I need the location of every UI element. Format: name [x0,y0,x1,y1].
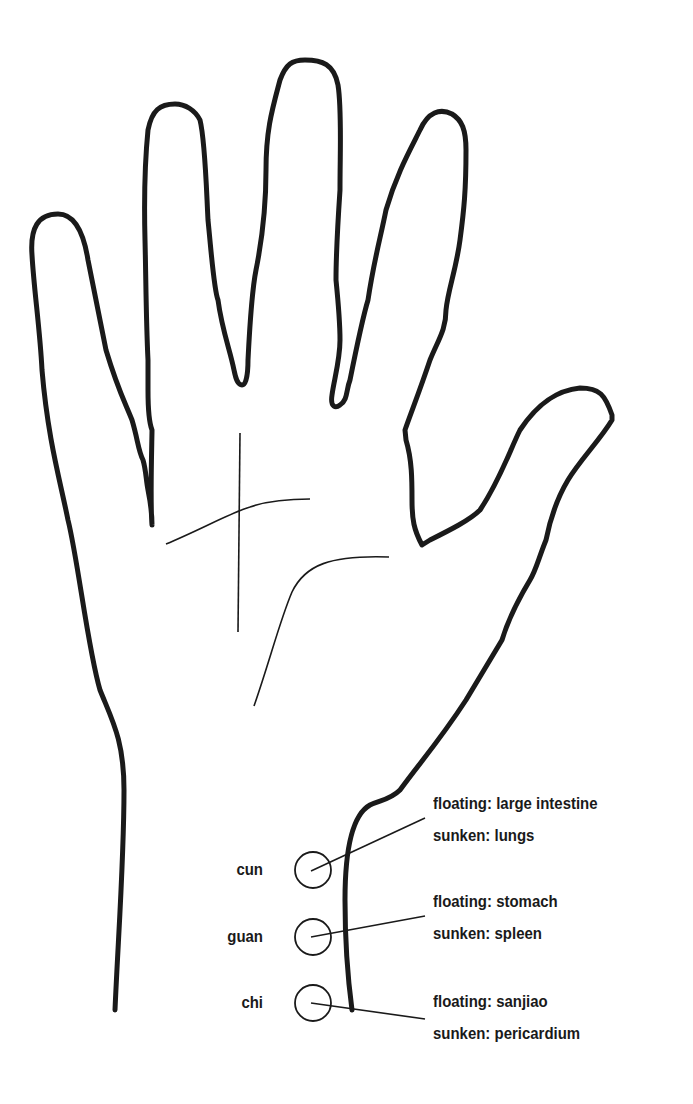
guan-floating-label: floating: stomach [433,888,558,916]
palm-line-heart [166,499,310,544]
cun-leader-line [311,818,425,871]
palm-line-life [254,557,389,706]
palm-line-vertical [238,433,240,632]
cun-sunken-label: sunken: lungs [433,822,534,850]
guan-label: guan [201,927,263,947]
hand-outline [32,60,612,1010]
chi-floating-label: floating: sanjiao [433,988,548,1016]
chi-sunken-label: sunken: pericardium [433,1020,580,1048]
hand-diagram [0,0,693,1104]
guan-sunken-label: sunken: spleen [433,920,542,948]
cun-label: cun [201,860,263,880]
chi-leader-line [311,1003,425,1019]
chi-label: chi [201,993,263,1013]
cun-floating-label: floating: large intestine [433,790,598,818]
